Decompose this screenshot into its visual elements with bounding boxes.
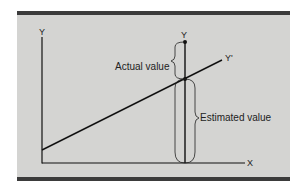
actual-value-label: Actual value [115, 62, 169, 72]
actual-value-brace [171, 42, 184, 79]
estimated-value-brace [175, 79, 199, 163]
y-axis-label: Y [39, 28, 45, 37]
regression-line-label: Y' [225, 54, 233, 63]
regression-diagram [0, 0, 306, 190]
x-axis-label: X [247, 159, 253, 168]
actual-point-label: Y [181, 31, 187, 40]
estimated-value-label: Estimated value [200, 113, 271, 123]
